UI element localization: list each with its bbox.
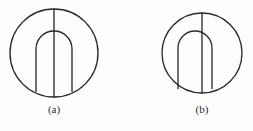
inner-arch-b	[178, 31, 212, 89]
caption-subfigure-b: (b)	[182, 103, 222, 115]
subfigure-a	[10, 9, 98, 97]
figure-panel: (a) (b)	[0, 0, 253, 131]
subfigure-b	[162, 13, 242, 93]
caption-subfigure-a: (a)	[34, 103, 74, 115]
